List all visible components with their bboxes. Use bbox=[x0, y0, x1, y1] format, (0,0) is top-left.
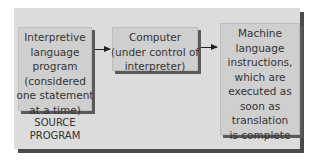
box-line: soon as bbox=[240, 99, 280, 114]
caption-line: SOURCE bbox=[18, 116, 92, 129]
source-program-box: Interpretive language program (considere… bbox=[18, 27, 92, 111]
box-line: translation bbox=[232, 113, 288, 128]
box-line: at a time) bbox=[29, 103, 80, 118]
box-line: language bbox=[31, 45, 80, 60]
arrow-right-icon bbox=[201, 47, 217, 48]
box-line: (considered bbox=[24, 74, 86, 89]
box-line: which are bbox=[235, 70, 286, 85]
box-line: instructions, bbox=[228, 55, 293, 70]
box-line: language bbox=[236, 41, 285, 56]
caption-line: PROGRAM bbox=[18, 129, 92, 142]
box-line: interpreter) bbox=[125, 59, 186, 74]
box-line: executed as bbox=[228, 84, 292, 99]
box-line: Computer bbox=[129, 30, 181, 45]
box-line: one statement bbox=[17, 88, 94, 103]
box-line: is complete bbox=[230, 128, 291, 143]
arrow-right-icon bbox=[95, 49, 110, 50]
box-line: Interpretive bbox=[24, 30, 86, 45]
computer-box: Computer (under control of interpreter) bbox=[112, 27, 198, 71]
source-program-caption: SOURCE PROGRAM bbox=[18, 116, 92, 142]
box-line: program bbox=[33, 59, 78, 74]
box-line: (under control of bbox=[111, 45, 199, 60]
machine-language-box: Machine language instructions, which are… bbox=[220, 23, 300, 135]
box-line: Machine bbox=[238, 26, 282, 41]
